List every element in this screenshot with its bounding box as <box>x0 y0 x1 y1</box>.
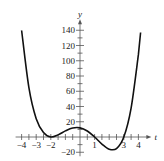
x-axis-label: t <box>154 132 157 142</box>
y-axis-label: y <box>77 9 82 19</box>
y-tick-label: 40 <box>66 102 76 112</box>
y-tick-label: 20 <box>66 117 76 127</box>
x-tick-label: −2 <box>46 140 56 150</box>
y-axis-arrow <box>78 19 82 24</box>
y-tick-label: 140 <box>62 25 76 35</box>
x-tick-label: 4 <box>136 140 141 150</box>
y-tick-label: −20 <box>61 147 76 157</box>
y-tick-label: 100 <box>62 56 76 66</box>
series-line <box>22 30 141 150</box>
y-tick-label: 80 <box>66 71 76 81</box>
chart: −4−3−2134−2020406080100120140 t y <box>0 0 164 161</box>
x-tick-label: −4 <box>17 140 27 150</box>
x-axis-arrow <box>146 135 151 139</box>
x-tick-label: 1 <box>92 140 97 150</box>
y-tick-label: 120 <box>62 41 76 51</box>
x-tick-label: −3 <box>31 140 41 150</box>
y-tick-label: 60 <box>66 86 76 96</box>
